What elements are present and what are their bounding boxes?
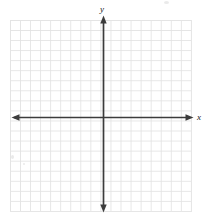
grid-lines bbox=[10, 20, 191, 211]
y-axis-label: y bbox=[100, 5, 104, 14]
coordinate-plane-svg bbox=[0, 0, 208, 213]
x-axis-label: x bbox=[197, 113, 201, 122]
scan-artifact-speck-left bbox=[11, 155, 14, 159]
coordinate-plane-figure: y x bbox=[0, 0, 208, 213]
scan-artifact-speck-lower bbox=[23, 163, 25, 165]
scan-artifact-speck-top bbox=[164, 1, 169, 4]
